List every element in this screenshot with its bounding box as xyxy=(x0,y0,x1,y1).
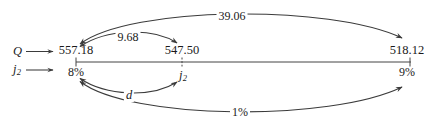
number-line-axis xyxy=(76,58,411,67)
row-label-j2: j2 xyxy=(13,63,21,77)
interpolation-diagram-canvas xyxy=(0,0,430,125)
arc-label-yield-difference-text: d xyxy=(126,88,132,102)
row-label-j2-subscript: 2 xyxy=(16,67,21,77)
arc-label-yield-difference: d xyxy=(124,89,134,102)
arc-label-total-price-difference: 39.06 xyxy=(217,10,248,22)
row-label-Q: Q xyxy=(13,45,22,58)
node-middle-top-value: 547.50 xyxy=(165,44,199,57)
node-middle-bottom-subscript: 2 xyxy=(182,73,187,83)
node-left-top-value: 557.18 xyxy=(59,44,93,57)
node-right-bottom-value: 9% xyxy=(399,66,415,78)
diagram-root: Q j2 557.18 547.50 518.12 8% j2 9% 39.06… xyxy=(0,0,430,125)
node-right-top-value: 518.12 xyxy=(390,44,424,57)
row-label-Q-symbol: Q xyxy=(13,44,22,58)
arc-label-total-yield-difference: 1% xyxy=(230,106,250,118)
node-left-bottom-value: 8% xyxy=(68,66,84,78)
arc-label-partial-price-difference: 9.68 xyxy=(116,31,141,43)
node-middle-bottom-value: j2 xyxy=(179,66,187,83)
